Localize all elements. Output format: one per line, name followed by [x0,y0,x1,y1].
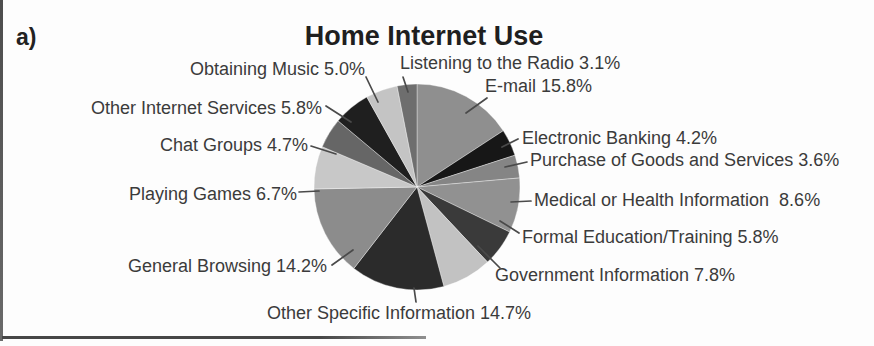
leader-line-medical-health [511,201,531,202]
slice-label-chat-groups: Chat Groups 4.7% [20,136,308,154]
pie-chart-figure: a) Home Internet Use E-mail 15.8% Electr… [0,0,874,346]
slice-label-purchase-of-goods: Purchase of Goods and Services 3.6% [530,151,839,169]
slice-label-playing-games: Playing Games 6.7% [20,185,297,203]
slice-label-other-internet-services: Other Internet Services 5.8% [20,99,322,117]
slice-label-government-information: Government Information 7.8% [495,266,735,284]
slice-label-other-specific-information: Other Specific Information 14.7% [267,304,531,322]
slice-label-listening-radio: Listening to the Radio 3.1% [400,54,620,72]
slice-label-general-browsing: General Browsing 14.2% [20,257,327,275]
slice-label-electronic-banking: Electronic Banking 4.2% [522,129,717,147]
leader-line-playing-games [299,191,319,192]
slice-label-medical-health: Medical or Health Information 8.6% [534,191,820,209]
chart-title: Home Internet Use [305,23,544,50]
slice-label-formal-education: Formal Education/Training 5.8% [522,228,778,246]
figure-panel-label: a) [16,26,36,49]
slice-label-email: E-mail 15.8% [485,77,592,95]
slice-label-obtaining-music: Obtaining Music 5.0% [20,60,365,78]
pie-chart-canvas [0,0,874,346]
